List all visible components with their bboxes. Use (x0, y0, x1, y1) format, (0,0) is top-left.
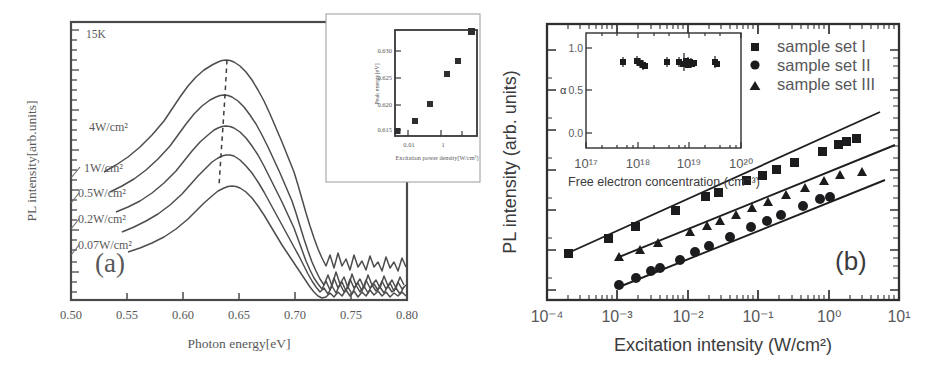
panel-a-inset-xtick-0: 0.01 (403, 141, 414, 148)
panel-b-xtick-5: 10¹ (887, 308, 910, 325)
panel-a-temperature-annotation: 15K (86, 28, 107, 40)
panel-b-inset-x-tick-labels: 10¹⁷ 10¹⁸ 10¹⁹ 10²⁰ (574, 156, 753, 171)
legend-marker-circle (750, 60, 759, 69)
panel-b-xtick-1: 10⁻³ (601, 308, 633, 325)
panel-b-xtick-2: 10⁻² (672, 308, 704, 325)
spectrum-curve-0.07W (128, 186, 406, 298)
panel-b-xlabel: Excitation intensity (W/cm²) (614, 335, 832, 355)
panel-b-label: (b) (835, 246, 867, 276)
panel-b-inset-xlabel: Free electron concentration (cm⁻³) (568, 175, 760, 189)
panel-b-canvas: 10⁻⁴ 10⁻³ 10⁻² 10⁻¹ 10⁰ 10¹ Excitation i… (480, 0, 939, 368)
panel-a-curve-labels: 4W/cm² 1W/cm² 0.5W/cm² 0.2W/cm² 0.07W/cm… (78, 120, 132, 252)
panel-a-xtick-6: 0.80 (396, 308, 418, 322)
curve-label-0.5W: 0.5W/cm² (78, 186, 126, 200)
panel-b-xtick-3: 10⁻¹ (742, 308, 773, 325)
legend-label-sample-set-II: sample set II (777, 56, 871, 74)
curve-label-0.2W: 0.2W/cm² (78, 212, 126, 226)
panel-a-peak-shift-dashed-line (219, 60, 227, 186)
panel-a-xlabel: Photon energy[eV] (188, 336, 291, 351)
panel-b-inset-y-tick-labels: 1.0 0.5 0.0 (568, 42, 583, 139)
panel-b-legend: sample set I sample set II sample set II… (750, 37, 876, 93)
panel-a-inset-ylabel: Peak energy[eV] (373, 63, 380, 105)
panel-b-inset: 1.0 0.5 0.0 α (560, 33, 760, 189)
panel-b-inset-ytick-2: 1.0 (568, 42, 583, 54)
figure-two-panel: 0.50 0.55 0.60 0.65 0.70 0.75 0.80 Photo… (0, 0, 939, 368)
panel-a-label: (a) (95, 248, 125, 278)
panel-b-inset-ylabel: α (560, 84, 567, 96)
panel-a-xtick-0: 0.50 (60, 308, 82, 322)
panel-a-inset-ytick-0: 0.615 (377, 126, 392, 133)
curve-label-1W: 1W/cm² (84, 161, 123, 175)
panel-a-xtick-3: 0.65 (228, 308, 250, 322)
fit-line-sample-set-III (619, 145, 895, 257)
panel-b-xtick-4: 10⁰ (817, 308, 841, 325)
panel-a-xtick-4: 0.70 (284, 308, 306, 322)
panel-b-inset-xtick-3: 10²⁰ (729, 156, 753, 171)
panel-b-xtick-0: 10⁻⁴ (531, 308, 564, 325)
panel-a-xtick-1: 0.55 (116, 308, 138, 322)
panel-b-inset-xtick-2: 10¹⁹ (677, 156, 701, 171)
legend-markers (750, 43, 761, 90)
curve-label-0.07W: 0.07W/cm² (78, 238, 132, 252)
panel-a-inset: 0.615 0.620 0.625 0.630 0.01 1 Excitatio… (326, 14, 480, 182)
legend-label-sample-set-I: sample set I (777, 37, 866, 55)
panel-b-inset-xtick-1: 10¹⁸ (626, 156, 650, 171)
panel-b-ylabel: PL intensity (arb. units) (500, 70, 520, 253)
panel-b: 10⁻⁴ 10⁻³ 10⁻² 10⁻¹ 10⁰ 10¹ Excitation i… (480, 0, 939, 368)
panel-a-ylabel: PL intensity[arb.units] (24, 101, 39, 222)
panel-a-inset-xtick-1: 1 (441, 141, 444, 148)
panel-b-inset-ytick-0: 0.0 (568, 127, 583, 139)
panel-a-xtick-5: 0.75 (340, 308, 362, 322)
panel-a-canvas: 0.50 0.55 0.60 0.65 0.70 0.75 0.80 Photo… (0, 0, 480, 368)
legend-label-sample-set-III: sample set III (777, 75, 875, 93)
panel-b-x-tick-labels: 10⁻⁴ 10⁻³ 10⁻² 10⁻¹ 10⁰ 10¹ (531, 308, 911, 325)
panel-b-inset-ytick-1: 0.5 (568, 84, 583, 96)
curve-label-4W: 4W/cm² (89, 120, 128, 134)
legend-marker-triangle (750, 81, 761, 90)
panel-a-inset-xlabel: Excitation power density[W/cm²] (396, 154, 479, 161)
legend-marker-square (751, 43, 759, 51)
panel-a: 0.50 0.55 0.60 0.65 0.70 0.75 0.80 Photo… (0, 0, 480, 368)
panel-a-x-tick-labels: 0.50 0.55 0.60 0.65 0.70 0.75 0.80 (60, 308, 418, 322)
panel-a-inset-ytick-3: 0.630 (377, 47, 392, 54)
panel-a-xtick-2: 0.60 (172, 308, 194, 322)
panel-b-inset-xtick-0: 10¹⁷ (574, 156, 598, 171)
legend-labels: sample set I sample set II sample set II… (777, 37, 875, 93)
